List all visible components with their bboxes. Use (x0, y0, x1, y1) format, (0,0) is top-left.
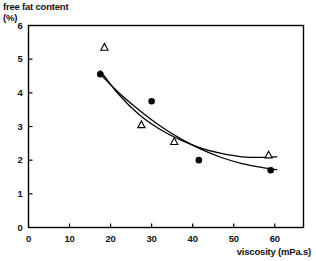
x-tick-label: 50 (224, 233, 244, 244)
y-tick-label: 4 (9, 87, 23, 98)
x-tick-label: 10 (60, 233, 80, 244)
x-tick-label: 30 (142, 233, 162, 244)
y-tick-label: 5 (9, 53, 23, 64)
plot-frame (29, 26, 304, 228)
scatter-plot-canvas (0, 0, 316, 261)
x-tick-label: 60 (265, 233, 285, 244)
y-tick-label: 2 (9, 154, 23, 165)
y-tick-label: 6 (9, 20, 23, 31)
y-tick-label: 3 (9, 121, 23, 132)
x-tick-label: 40 (183, 233, 203, 244)
y-tick-label: 0 (9, 222, 23, 233)
fit-curves (98, 71, 277, 170)
axis-ticks (29, 59, 275, 227)
data-markers (97, 43, 274, 173)
y-tick-label: 1 (9, 188, 23, 199)
x-tick-label: 20 (101, 233, 121, 244)
chart-figure: free fat content (%) viscosity (mPa.s) 0… (0, 0, 316, 261)
x-tick-label: 0 (19, 233, 39, 244)
